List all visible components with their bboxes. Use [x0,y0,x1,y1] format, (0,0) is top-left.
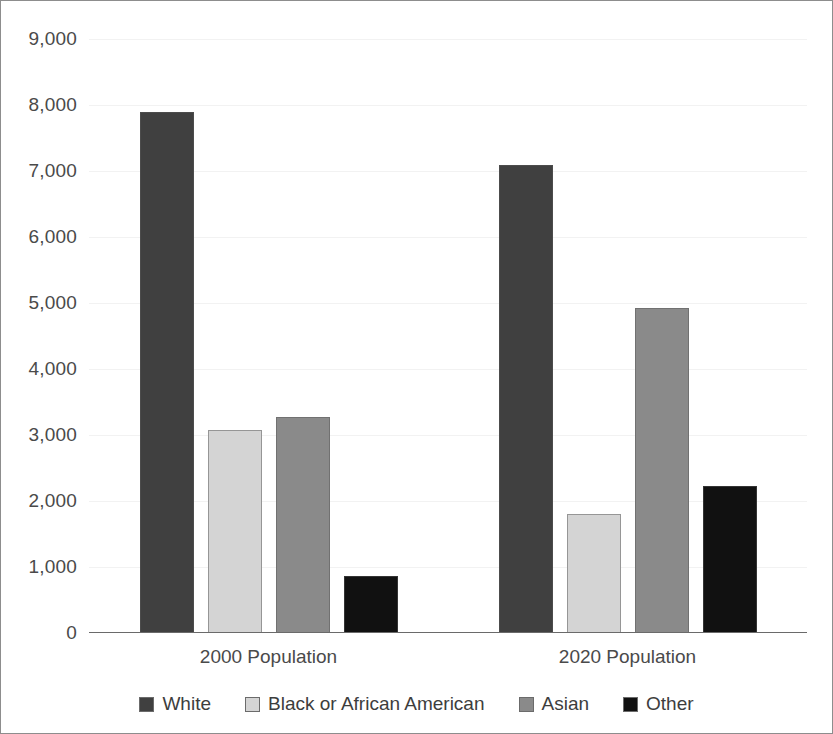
legend-item[interactable]: Asian [519,693,590,715]
legend-label: Other [646,693,694,715]
bar[interactable] [208,430,262,633]
legend-swatch-icon [139,697,154,712]
legend-swatch-icon [245,697,260,712]
legend-item[interactable]: Other [623,693,694,715]
legend-swatch-icon [623,697,638,712]
chart-legend: WhiteBlack or African AmericanAsianOther [1,693,832,715]
y-axis-tick-label: 1,000 [28,556,77,578]
legend-item[interactable]: White [139,693,211,715]
legend-label: Black or African American [268,693,484,715]
y-axis-tick-label: 9,000 [28,28,77,50]
y-axis-tick-label: 8,000 [28,94,77,116]
bar-groups [89,39,807,633]
bar-set [89,39,448,633]
legend-label: Asian [542,693,590,715]
bar[interactable] [499,165,553,633]
plot-area [89,39,807,633]
legend-label: White [162,693,211,715]
x-axis-category-label: 2020 Population [448,646,807,668]
y-axis-tick-label: 2,000 [28,490,77,512]
bar[interactable] [567,514,621,633]
y-axis-tick-label: 5,000 [28,292,77,314]
y-axis-tick-label: 7,000 [28,160,77,182]
legend-swatch-icon [519,697,534,712]
y-axis-tick-label: 4,000 [28,358,77,380]
y-axis-tick-label: 3,000 [28,424,77,446]
y-axis-tick-labels: 01,0002,0003,0004,0005,0006,0007,0008,00… [1,39,77,633]
bar[interactable] [140,112,194,633]
x-axis-category-labels: 2000 Population2020 Population [89,646,807,668]
x-axis-category-label: 2000 Population [89,646,448,668]
legend-item[interactable]: Black or African American [245,693,484,715]
y-axis-tick-label: 6,000 [28,226,77,248]
x-axis-line [89,632,807,633]
y-axis-tick-label: 0 [66,622,77,644]
bar[interactable] [276,417,330,633]
bar-group [448,39,807,633]
bar[interactable] [703,486,757,633]
bar-set [448,39,807,633]
chart-container: 01,0002,0003,0004,0005,0006,0007,0008,00… [0,0,833,734]
bar[interactable] [635,308,689,633]
bar[interactable] [344,576,398,633]
bar-group [89,39,448,633]
